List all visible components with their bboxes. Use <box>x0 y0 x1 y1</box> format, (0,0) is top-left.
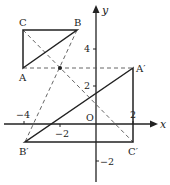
coordinate-diagram: C B A A′ B′ C′ x y O −4 −2 2 4 2 −2 <box>0 0 170 185</box>
y-tick-4: 4 <box>84 43 90 54</box>
label-C-prime: C′ <box>128 146 139 157</box>
x-tick-neg2: −2 <box>55 128 69 139</box>
y-axis-label: y <box>101 4 109 17</box>
x-tick-2: 2 <box>130 109 136 120</box>
dashed-lines <box>23 30 133 142</box>
label-A: A <box>18 72 27 83</box>
triangle-AprimeBprimeCprime <box>25 68 133 142</box>
label-A-prime: A′ <box>135 63 146 74</box>
dashed-C-Cprime <box>23 30 133 142</box>
x-axis-label: x <box>160 118 167 131</box>
dashed-B-Bprime <box>25 30 77 142</box>
label-B-prime: B′ <box>19 146 29 157</box>
y-tick-neg2: −2 <box>100 156 114 167</box>
triangle-ABC <box>23 30 77 68</box>
origin-label: O <box>86 112 94 123</box>
x-axis-arrow-icon <box>150 121 158 128</box>
y-axis-arrow-icon <box>93 5 100 13</box>
y-tick-2: 2 <box>84 80 90 91</box>
label-C: C <box>19 17 27 28</box>
x-axis <box>4 121 158 128</box>
label-B: B <box>74 17 81 28</box>
rotation-center-dot <box>58 66 62 70</box>
x-tick-neg4: −4 <box>16 109 30 120</box>
